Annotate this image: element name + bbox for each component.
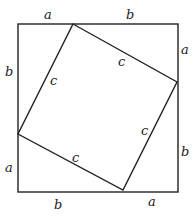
label-c-bottom-right: c	[141, 123, 149, 138]
label-c-top-left: c	[50, 73, 58, 88]
label-bottom-a: a	[148, 194, 156, 209]
label-top-b: b	[126, 7, 134, 22]
outer-square	[18, 24, 178, 192]
pythagoras-diagram: a b a b b a b a c c c c	[0, 0, 196, 216]
label-c-bottom-left: c	[72, 150, 80, 165]
label-right-a: a	[181, 42, 189, 57]
label-bottom-b: b	[54, 197, 62, 212]
label-top-a: a	[44, 7, 52, 22]
inner-square	[18, 24, 177, 190]
label-right-b: b	[181, 144, 189, 159]
label-left-b: b	[5, 64, 13, 79]
label-c-top-right: c	[118, 54, 126, 69]
label-left-a: a	[5, 160, 13, 175]
